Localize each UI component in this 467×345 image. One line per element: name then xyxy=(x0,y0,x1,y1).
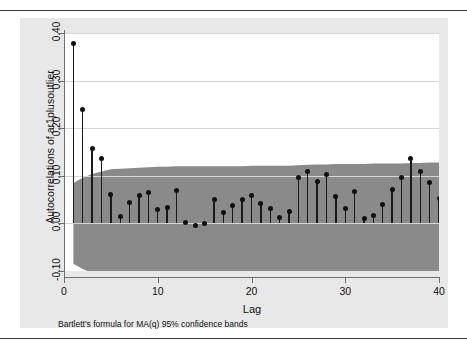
spike-line xyxy=(82,109,83,223)
data-point-marker xyxy=(343,206,348,211)
spike-line xyxy=(232,205,233,223)
spike-line xyxy=(213,200,214,224)
data-point-marker xyxy=(268,206,273,211)
gridline-y xyxy=(64,81,439,82)
data-point-marker xyxy=(90,146,95,151)
gridline-y xyxy=(64,128,439,129)
spike-line xyxy=(298,177,299,223)
gridline-y xyxy=(64,33,439,34)
spike-line xyxy=(438,198,439,223)
data-point-marker xyxy=(202,221,207,226)
spike-line xyxy=(138,196,139,224)
spike-line xyxy=(429,182,430,223)
spike-line xyxy=(382,204,383,223)
x-tick-label: 10 xyxy=(138,285,178,297)
spike-line xyxy=(251,196,252,224)
spike-line xyxy=(176,191,177,224)
spike-line xyxy=(391,189,392,223)
spike-line xyxy=(260,203,261,223)
data-point-marker xyxy=(418,169,423,174)
spike-line xyxy=(354,191,355,223)
spike-line xyxy=(326,175,327,224)
data-point-marker xyxy=(212,197,217,202)
top-divider-rule xyxy=(0,10,467,11)
spike-line xyxy=(420,172,421,224)
confidence-band xyxy=(64,33,439,271)
gridline-y xyxy=(64,223,439,224)
spike-line xyxy=(110,195,111,224)
data-point-marker xyxy=(352,189,357,194)
x-tick-label: 40 xyxy=(419,285,459,297)
data-point-marker xyxy=(118,214,123,219)
gridline-y xyxy=(64,176,439,177)
spike-line xyxy=(73,44,74,223)
spike-line xyxy=(307,172,308,223)
plot-area xyxy=(64,33,439,271)
x-tick-mark xyxy=(64,278,65,283)
data-point-marker xyxy=(137,193,142,198)
x-tick-mark xyxy=(439,278,440,283)
x-tick-label: 30 xyxy=(325,285,365,297)
data-point-marker xyxy=(399,175,404,180)
y-axis-title: Autocorrelations of ar1plusoutlier xyxy=(44,37,56,257)
spike-line xyxy=(148,192,149,223)
spike-line xyxy=(335,196,336,223)
x-tick-label: 20 xyxy=(232,285,272,297)
data-point-marker xyxy=(287,209,292,214)
y-axis-line xyxy=(64,30,65,278)
data-point-marker xyxy=(146,190,151,195)
data-point-marker xyxy=(80,107,85,112)
spike-line xyxy=(101,159,102,224)
spike-line xyxy=(241,199,242,223)
data-point-marker xyxy=(437,196,440,201)
x-tick-mark xyxy=(158,278,159,283)
x-axis-title: Lag xyxy=(64,303,440,315)
spike-line xyxy=(129,203,130,223)
figure-page: -0.100.000.100.200.300.40 010203040 Auto… xyxy=(0,0,467,345)
data-point-marker xyxy=(296,175,301,180)
x-tick-mark xyxy=(345,278,346,283)
spike-line xyxy=(410,158,411,223)
data-point-marker xyxy=(240,197,245,202)
data-point-marker xyxy=(390,187,395,192)
x-tick-mark xyxy=(252,278,253,283)
spike-line xyxy=(316,181,317,223)
spike-line xyxy=(91,149,92,224)
x-tick-label: 0 xyxy=(44,285,84,297)
data-point-marker xyxy=(155,207,160,212)
data-point-marker xyxy=(165,205,170,210)
bottom-divider-rule xyxy=(0,338,467,339)
spike-line xyxy=(401,177,402,223)
data-point-marker xyxy=(315,179,320,184)
confidence-band-note: Bartlett's formula for MA(q) 95% confide… xyxy=(58,319,248,329)
data-point-marker xyxy=(362,216,367,221)
